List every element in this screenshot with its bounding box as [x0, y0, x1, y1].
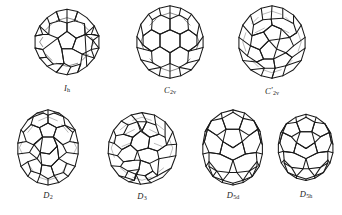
cage-drawing-d5d [198, 106, 268, 188]
structure-c2v-prime: C′2v [226, 2, 318, 96]
structure-label-c2v: C2v [127, 86, 213, 95]
structure-d5d: D5d [194, 106, 272, 200]
structure-d2: D2 [8, 106, 88, 200]
cage-drawing-d2 [12, 106, 84, 188]
cage-drawing-ih [29, 4, 105, 80]
structure-label-d3: D3 [96, 192, 188, 201]
cage-drawing-d3 [100, 108, 184, 188]
structure-ih: Ih [24, 4, 110, 93]
structure-label-d5d: D5d [194, 191, 272, 200]
structure-row-top: Ih [0, 0, 342, 104]
structure-d5h: D5h [272, 108, 340, 199]
structure-label-ih: Ih [24, 84, 110, 93]
structure-label-d2: D2 [8, 191, 88, 200]
structure-label-d5h: D5h [272, 190, 340, 199]
structure-row-bottom: D2 [0, 104, 342, 215]
fullerene-symmetry-figure: Ih [0, 0, 342, 215]
structure-c2v: C2v [127, 2, 213, 95]
cage-drawing-c2v-prime [231, 2, 313, 82]
structure-d3: D3 [96, 108, 188, 201]
cage-drawing-d5h [274, 108, 338, 186]
structure-label-c2v-prime: C′2v [226, 86, 318, 96]
cage-drawing-c2v [131, 2, 209, 82]
